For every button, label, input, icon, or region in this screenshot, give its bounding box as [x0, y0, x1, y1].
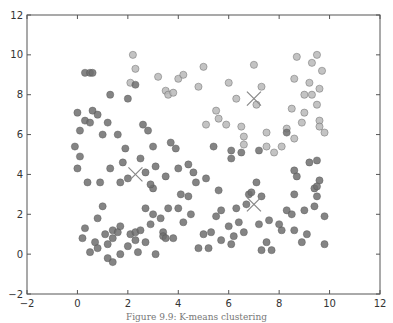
data-point: [308, 59, 315, 66]
data-point: [167, 139, 174, 146]
data-point: [313, 193, 320, 200]
data-point: [152, 163, 159, 170]
data-point: [152, 251, 159, 258]
data-point: [291, 75, 298, 82]
data-point: [137, 155, 144, 162]
data-point: [248, 189, 255, 196]
data-point: [147, 221, 154, 228]
data-point: [238, 149, 245, 156]
data-point: [263, 239, 270, 246]
data-point: [122, 145, 129, 152]
data-point: [258, 83, 265, 90]
data-point: [149, 211, 156, 218]
data-point: [107, 165, 114, 172]
data-point: [263, 129, 270, 136]
data-point: [119, 159, 126, 166]
data-point: [195, 83, 202, 90]
data-point: [291, 135, 298, 142]
data-point: [104, 241, 111, 248]
data-point: [283, 129, 290, 136]
data-point: [195, 245, 202, 252]
data-point: [117, 179, 124, 186]
data-point: [104, 119, 111, 126]
data-point: [94, 111, 101, 118]
data-point: [288, 211, 295, 218]
data-point: [81, 225, 88, 232]
data-point: [139, 121, 146, 128]
data-point: [313, 51, 320, 58]
data-point: [155, 73, 162, 80]
data-point: [129, 51, 136, 58]
data-point: [134, 249, 141, 256]
data-point: [316, 123, 323, 130]
data-point: [240, 133, 247, 140]
data-point: [172, 145, 179, 152]
data-point: [157, 215, 164, 222]
data-point: [215, 115, 222, 122]
data-point: [185, 161, 192, 168]
data-point: [308, 91, 315, 98]
data-point: [316, 85, 323, 92]
data-point: [124, 95, 131, 102]
data-point: [218, 207, 225, 214]
scatter-chart: −2024681012−2024681012: [0, 0, 393, 323]
axis-ticks: −2024681012−2024681012: [8, 10, 386, 310]
data-point: [218, 237, 225, 244]
data-point: [74, 165, 81, 172]
data-point: [291, 191, 298, 198]
data-point: [213, 107, 220, 114]
data-point: [250, 61, 257, 68]
x-tick-label: 12: [374, 298, 387, 309]
data-point: [253, 101, 260, 108]
data-point: [235, 219, 242, 226]
data-point: [180, 219, 187, 226]
data-point: [223, 121, 230, 128]
data-point: [293, 173, 300, 180]
data-point: [276, 221, 283, 228]
data-point: [142, 205, 149, 212]
y-tick-label: 2: [17, 209, 23, 220]
x-tick-label: 0: [74, 298, 80, 309]
data-point: [86, 249, 93, 256]
data-point: [99, 131, 106, 138]
data-point: [109, 235, 116, 242]
data-point: [71, 143, 78, 150]
data-point: [170, 235, 177, 242]
data-point: [177, 191, 184, 198]
y-tick-label: 4: [17, 169, 23, 180]
data-point: [293, 53, 300, 60]
data-points: [71, 51, 328, 265]
data-point: [207, 229, 214, 236]
data-point: [202, 121, 209, 128]
data-point: [313, 183, 320, 190]
data-point: [258, 247, 265, 254]
data-point: [321, 213, 328, 220]
data-point: [228, 241, 235, 248]
data-point: [147, 181, 154, 188]
data-point: [86, 119, 93, 126]
data-point: [114, 131, 121, 138]
data-point: [144, 127, 151, 134]
data-point: [225, 79, 232, 86]
data-point: [132, 65, 139, 72]
data-point: [132, 81, 139, 88]
centroid-x-icon: [128, 167, 142, 181]
data-point: [243, 201, 250, 208]
data-point: [238, 123, 245, 130]
x-tick-label: −2: [20, 298, 35, 309]
data-point: [303, 231, 310, 238]
data-point: [124, 243, 131, 250]
y-tick-label: −2: [8, 289, 23, 300]
data-point: [162, 235, 169, 242]
data-point: [180, 71, 187, 78]
data-point: [187, 211, 194, 218]
data-point: [213, 213, 220, 220]
data-point: [175, 205, 182, 212]
data-point: [288, 105, 295, 112]
data-point: [255, 221, 262, 228]
data-point: [142, 169, 149, 176]
data-point: [253, 179, 260, 186]
x-tick-label: 8: [276, 298, 282, 309]
data-point: [99, 203, 106, 210]
y-tick-label: 6: [17, 129, 23, 140]
